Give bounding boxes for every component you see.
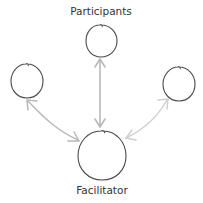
- participant-node-left: [11, 64, 43, 98]
- double-arrow-top: [95, 59, 105, 127]
- diagram-graphic: [0, 0, 203, 203]
- participant-node-top: [86, 25, 117, 57]
- facilitator-node: [78, 131, 126, 180]
- facilitator-label: Facilitator: [62, 184, 142, 196]
- double-arrow-left: [27, 100, 79, 141]
- participant-node-right: [163, 67, 195, 101]
- diagram-canvas: Participants: [0, 0, 203, 203]
- double-arrow-right: [126, 99, 168, 140]
